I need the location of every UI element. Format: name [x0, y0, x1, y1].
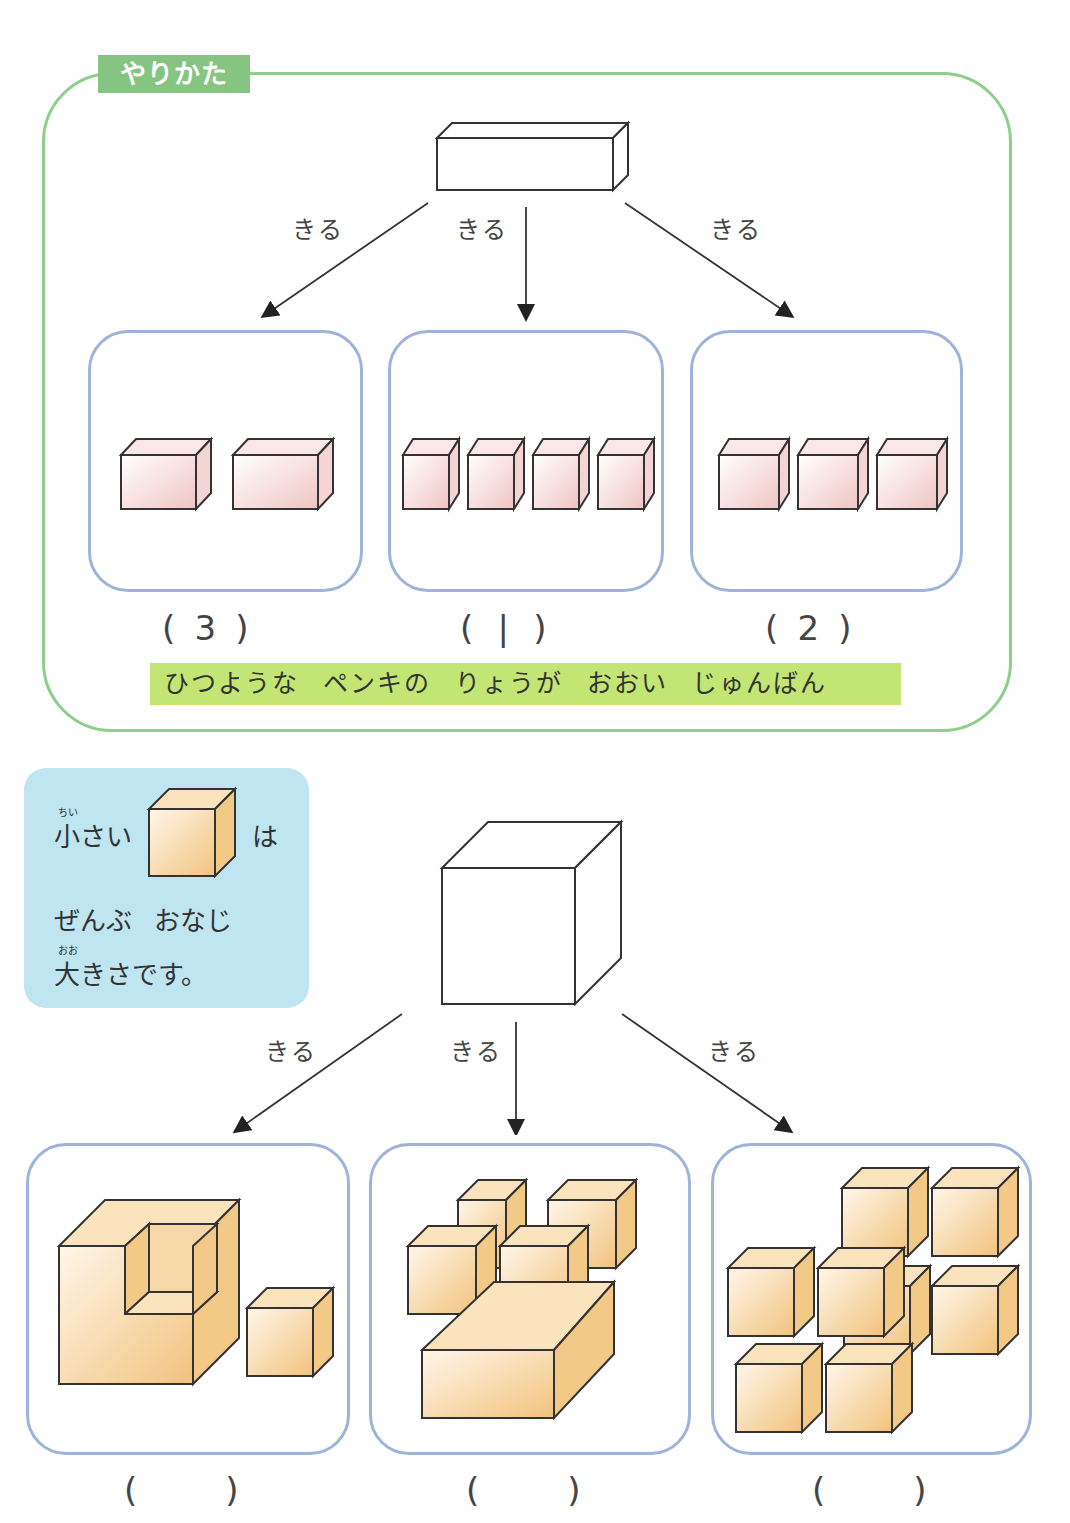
pieces-2-icon — [91, 333, 361, 591]
cut-label: きる — [708, 1032, 760, 1067]
example-answer-3: (2) — [765, 608, 852, 648]
problem-panel-1 — [26, 1143, 350, 1455]
cut-label: きる — [450, 1032, 502, 1067]
cut-label: きる — [265, 1032, 317, 1067]
answer-value: 3 — [175, 608, 235, 648]
example-note: ひつような ペンキの りょうが おおい じゅんばん — [150, 663, 901, 705]
example-panel-3 — [690, 330, 963, 592]
problem-answer-1[interactable]: () — [124, 1470, 239, 1510]
problem-answer-2[interactable]: () — [466, 1470, 581, 1510]
pieces-4-icon — [391, 333, 663, 591]
hint-line3: 大きさです。 — [54, 954, 207, 991]
cut-label: きる — [456, 210, 508, 245]
scattered-cubes-icon — [714, 1146, 1032, 1454]
long-block-icon — [430, 118, 635, 196]
cut-label: きる — [710, 210, 762, 245]
cut-arrows-bottom — [200, 1010, 820, 1135]
example-panel-2 — [388, 330, 664, 592]
hint-line1-start: 小さい — [54, 816, 132, 853]
example-answer-2: (|) — [460, 608, 547, 648]
example-panel-1 — [88, 330, 363, 592]
example-tab-label: やりかた — [98, 55, 250, 93]
answer-value: 2 — [778, 608, 838, 648]
notched-cube-icon — [29, 1146, 349, 1454]
answer-value: | — [473, 608, 533, 648]
example-answer-1: (3) — [162, 608, 249, 648]
unit-cube-icon — [146, 786, 238, 878]
cube-stack-icon — [372, 1146, 690, 1454]
cut-label: きる — [292, 210, 344, 245]
hint-box: ちい 小さい は ぜんぶ おなじ おお 大きさです。 — [24, 768, 309, 1008]
problem-panel-3 — [711, 1143, 1032, 1455]
hint-line1-end: は — [252, 816, 278, 853]
problem-panel-2 — [369, 1143, 691, 1455]
pieces-3-icon — [693, 333, 963, 591]
hint-line2: ぜんぶ おなじ — [54, 900, 232, 937]
problem-answer-3[interactable]: () — [812, 1470, 927, 1510]
big-cube-icon — [438, 818, 628, 1008]
